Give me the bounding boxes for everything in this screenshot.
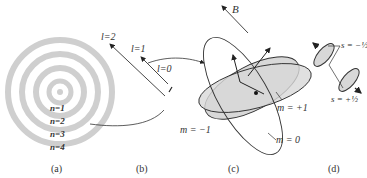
label-m-minus1: m = −1 — [180, 124, 211, 135]
caption-b: (b) — [136, 163, 148, 175]
caption-c: (c) — [228, 163, 239, 175]
label-s-plus-half: s = +½ — [331, 94, 358, 104]
label-l2: l=2 — [101, 31, 116, 42]
panel-c-orbits: B m = +1 m = −1 m = 0 — [180, 3, 316, 166]
caption-a: (a) — [51, 163, 62, 175]
caption-d: (d) — [328, 163, 340, 175]
spin-up-arrow — [355, 88, 361, 93]
label-m-0: m = 0 — [276, 134, 300, 145]
label-l1: l=1 — [131, 43, 146, 54]
label-s-minus-half: s = −½ — [341, 40, 367, 50]
label-n2: n=2 — [50, 116, 65, 126]
label-m-plus1: m = +1 — [277, 102, 308, 113]
label-n4: n=4 — [50, 142, 65, 152]
vector-l0 — [169, 87, 172, 92]
label-l0: l=0 — [157, 63, 172, 74]
label-n1: n=1 — [50, 103, 65, 113]
panel-a-shells: n=1 n=2 n=3 n=4 — [8, 40, 112, 152]
spin-down-arrow — [313, 43, 318, 47]
panel-d-spin: s = −½ s = +½ — [310, 40, 367, 104]
label-n3: n=3 — [50, 129, 65, 139]
b-field-label: B — [232, 3, 239, 15]
quantum-numbers-diagram: n=1 n=2 n=3 n=4 l=2 l=1 l=0 B m = +1 m =… — [0, 0, 367, 178]
